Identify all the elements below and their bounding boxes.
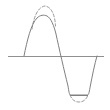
figure-background	[0, 0, 110, 110]
waveform-svg: Clipped sine waveform A sine-like wavefo…	[0, 0, 110, 110]
waveform-figure: Clipped sine waveform A sine-like wavefo…	[0, 0, 110, 110]
